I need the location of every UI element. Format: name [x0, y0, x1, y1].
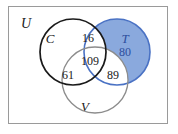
universal-set-label: U [21, 16, 32, 31]
venn-diagram-screenshot: U C T V 16 80 109 61 89 [0, 0, 178, 134]
venn-diagram-canvas: U C T V 16 80 109 61 89 [0, 0, 178, 134]
set-label-C: C [46, 31, 55, 46]
region-count-C-and-T: 16 [82, 31, 94, 45]
set-label-T: T [121, 31, 129, 46]
region-count-T-only: 80 [119, 45, 131, 59]
region-count-T-and-V: 89 [107, 68, 119, 82]
region-count-C-and-T-and-V: 109 [81, 54, 99, 68]
region-count-C-and-V: 61 [62, 68, 74, 82]
